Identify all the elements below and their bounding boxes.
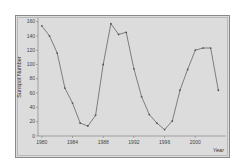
data-point [179, 89, 181, 91]
y-tick-label: 40 [29, 104, 35, 110]
sunspot-series-line [42, 24, 219, 130]
x-axis-title: Year [213, 147, 225, 153]
y-axis-title: Sunspot Number [16, 56, 22, 97]
data-point [41, 25, 43, 27]
data-point [110, 23, 112, 25]
data-point [49, 35, 51, 37]
line-chart: 0204060801001201401601980198419881992199… [0, 0, 252, 168]
data-point [148, 114, 150, 116]
data-point [171, 120, 173, 122]
data-point [141, 96, 143, 98]
y-tick-label: 80 [29, 75, 35, 81]
x-tick-label: 2000 [190, 139, 201, 145]
y-tick-label: 160 [27, 18, 36, 24]
data-point [95, 114, 97, 116]
x-tick-label: 1992 [128, 139, 139, 145]
data-point [202, 47, 204, 49]
data-point [56, 52, 58, 54]
data-point [210, 47, 212, 49]
y-tick-label: 60 [29, 90, 35, 96]
y-tick-label: 120 [27, 47, 36, 53]
data-point [156, 122, 158, 124]
data-point [72, 102, 74, 104]
data-point [133, 68, 135, 70]
data-point [217, 89, 219, 91]
data-point [79, 122, 81, 124]
data-point [187, 69, 189, 71]
x-tick-label: 1980 [36, 139, 47, 145]
data-point [125, 31, 127, 33]
data-point [64, 87, 66, 89]
y-tick-label: 20 [29, 118, 35, 124]
data-point [164, 129, 166, 131]
x-tick-label: 1988 [98, 139, 109, 145]
x-tick-label: 1996 [159, 139, 170, 145]
y-tick-label: 100 [27, 61, 36, 67]
data-point [87, 125, 89, 127]
y-tick-label: 0 [32, 133, 35, 139]
data-point [102, 64, 104, 66]
x-tick-label: 1984 [67, 139, 78, 145]
y-tick-label: 140 [27, 33, 36, 39]
data-point [118, 34, 120, 36]
data-point [194, 49, 196, 51]
